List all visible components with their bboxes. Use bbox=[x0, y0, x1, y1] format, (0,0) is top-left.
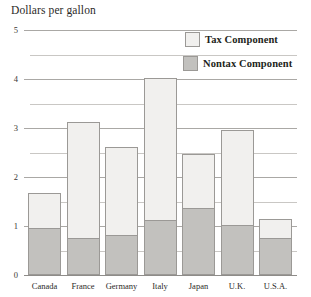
bar-group bbox=[105, 147, 138, 275]
bar-segment-tax bbox=[259, 219, 292, 239]
bar-segment-nontax bbox=[67, 238, 100, 275]
bar-group bbox=[144, 78, 177, 275]
legend-swatch-tax-icon bbox=[185, 32, 200, 47]
bar-segment-tax bbox=[221, 130, 254, 226]
bar-segment-nontax bbox=[28, 228, 61, 275]
legend-label-tax: Tax Component bbox=[205, 34, 278, 45]
bar-group bbox=[67, 122, 100, 275]
legend-label-nontax: Nontax Component bbox=[203, 58, 292, 69]
x-axis-category-label: U.S.A. bbox=[250, 282, 301, 291]
bar-group bbox=[259, 219, 292, 275]
bar-segment-nontax bbox=[221, 225, 254, 275]
bar-segment-tax bbox=[182, 154, 215, 209]
x-axis-baseline bbox=[24, 275, 297, 276]
gridline-major bbox=[24, 30, 297, 31]
bar-segment-tax bbox=[105, 147, 138, 236]
y-axis-tick-label: 0 bbox=[6, 271, 18, 280]
legend-entry-nontax: Nontax Component bbox=[183, 56, 292, 71]
y-axis-tick-label: 4 bbox=[6, 75, 18, 84]
bar-segment-nontax bbox=[105, 235, 138, 275]
bar-segment-tax bbox=[28, 193, 61, 229]
y-axis-tick-label: 2 bbox=[6, 173, 18, 182]
y-axis-tick-label: 5 bbox=[6, 26, 18, 35]
y-axis-tick-label: 3 bbox=[6, 124, 18, 133]
legend-entry-tax: Tax Component bbox=[185, 32, 278, 47]
bar-segment-nontax bbox=[259, 238, 292, 275]
bar-segment-nontax bbox=[182, 208, 215, 275]
bar-group bbox=[221, 130, 254, 275]
bar-segment-tax bbox=[67, 122, 100, 239]
gasoline-price-chart: Dollars per gallon 012345CanadaFranceGer… bbox=[0, 0, 311, 297]
bar-segment-tax bbox=[144, 78, 177, 221]
bar-group bbox=[28, 193, 61, 275]
bar-segment-nontax bbox=[144, 220, 177, 275]
bar-group bbox=[182, 154, 215, 275]
legend-swatch-nontax-icon bbox=[183, 56, 198, 71]
y-axis-tick-label: 1 bbox=[6, 222, 18, 231]
